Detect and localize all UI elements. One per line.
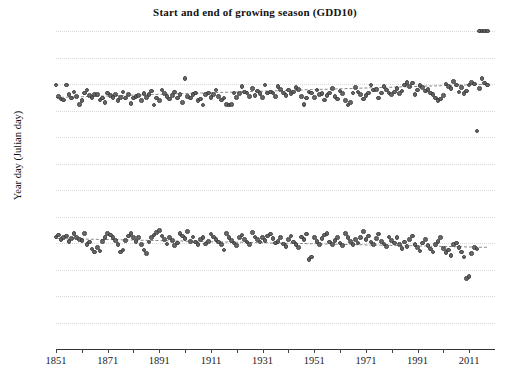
data-point [234,243,239,248]
x-axis-tick [392,349,393,353]
data-point [320,91,325,96]
x-axis-tick [185,349,186,353]
x-axis-tick [443,349,444,353]
data-point [61,98,66,103]
x-axis-tick [159,349,160,353]
data-point [309,255,314,260]
data-point [196,242,201,247]
x-axis-tick [211,349,212,353]
data-point [485,83,490,88]
data-point [348,100,353,105]
data-point [152,103,157,108]
data-point [376,96,381,101]
data-point [304,96,309,101]
x-axis-tick-label: 1871 [88,355,128,366]
data-point [126,92,131,97]
data-point [469,251,474,256]
data-point [415,88,420,93]
data-point [312,95,317,100]
data-point [64,83,69,88]
data-point [464,89,469,94]
data-point [330,86,335,91]
data-point [278,235,283,240]
data-point [80,238,85,243]
data-point [374,236,379,241]
data-point [69,96,74,101]
data-point [69,236,74,241]
gridline [56,217,495,218]
data-point [335,235,340,240]
data-point [284,93,289,98]
data-point [247,242,252,247]
data-point [374,87,379,92]
data-point [211,92,216,97]
data-point [178,92,183,97]
gridline [56,137,495,138]
data-point [410,81,415,86]
data-point [121,90,126,95]
data-point [201,103,206,108]
data-point [139,98,144,103]
data-point [457,90,462,95]
x-axis-tick [263,349,264,353]
x-axis-tick [418,349,419,353]
data-point [322,98,327,103]
data-point [136,235,141,240]
chart-root: Start and end of growing season (GDD10) … [0,0,510,382]
data-point [170,238,175,243]
data-point [260,95,265,100]
data-point [462,255,467,260]
data-point [250,86,255,91]
data-point [289,234,294,239]
x-axis-tick-label: 1951 [294,355,334,366]
data-point [366,91,371,96]
data-point [116,242,121,247]
x-axis-tick-label: 1851 [36,355,76,366]
data-point [129,101,134,106]
data-point [431,250,436,255]
data-point [273,94,278,99]
data-point [139,242,144,247]
x-axis-tick [108,349,109,353]
data-point [80,98,85,103]
plot-area [56,31,495,349]
data-point [222,96,227,101]
data-point [475,129,480,134]
data-point [366,234,371,239]
data-point [74,94,79,99]
data-point [118,95,123,100]
data-point [317,242,322,247]
data-point [240,84,245,89]
data-point [407,84,412,89]
data-point [351,91,356,96]
x-axis-line [56,349,495,350]
data-point [206,239,211,244]
data-point [302,237,307,242]
data-point [400,89,405,94]
data-point [454,83,459,88]
data-point [237,91,242,96]
gridline [56,323,495,324]
data-point [123,238,128,243]
data-point [449,86,454,91]
data-point [95,92,100,97]
data-point [165,242,170,247]
data-point [459,85,464,90]
x-axis-tick [237,349,238,353]
data-point [136,93,141,98]
data-point [229,102,234,107]
data-point [423,237,428,242]
x-axis-tick-label: 1891 [139,355,179,366]
x-axis-tick-label: 1931 [243,355,283,366]
data-point [405,244,410,249]
data-point [247,94,252,99]
data-point [284,244,289,249]
x-axis-tick [133,349,134,353]
data-point [253,93,258,98]
data-point [54,83,59,88]
data-point [157,228,162,233]
gridline [56,270,495,271]
data-point [467,274,472,279]
data-point [477,86,482,91]
data-point [222,248,227,253]
